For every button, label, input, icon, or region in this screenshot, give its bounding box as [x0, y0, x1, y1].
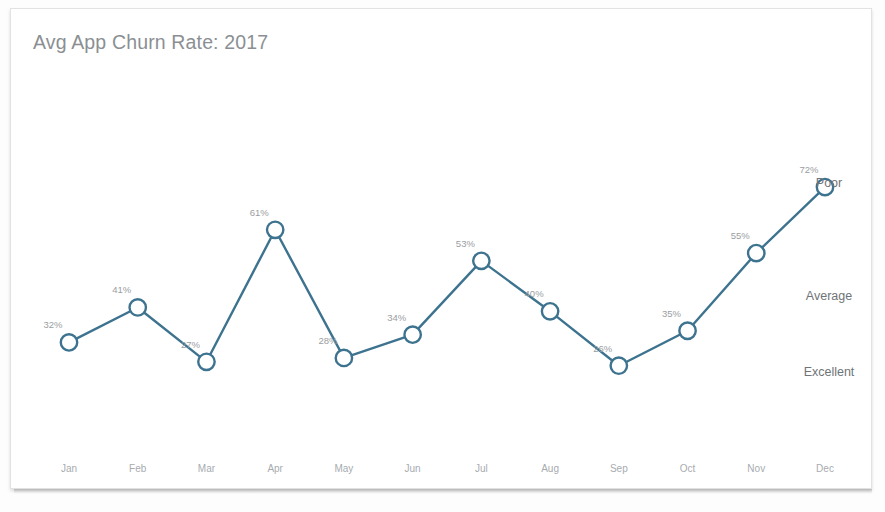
chart-zone-labels: PoorAverageExcellent	[804, 176, 855, 378]
data-point-mar[interactable]	[198, 354, 214, 370]
chart-x-axis-labels: JanFebMarAprMayJunJulAugSepOctNovDec	[61, 463, 834, 474]
value-label-mar: 27%	[181, 339, 201, 350]
value-label-aug: 40%	[525, 288, 545, 299]
x-axis-label-may: May	[334, 463, 353, 474]
x-axis-label-jul: Jul	[475, 463, 488, 474]
zone-label-average: Average	[806, 289, 852, 303]
x-axis-label-feb: Feb	[129, 463, 147, 474]
data-point-jul[interactable]	[473, 253, 489, 269]
page-root: Avg App Churn Rate: 2017 32%41%27%61%28%…	[0, 0, 885, 512]
value-label-jul: 53%	[456, 238, 476, 249]
data-point-jun[interactable]	[404, 326, 420, 342]
x-axis-label-jan: Jan	[61, 463, 77, 474]
chart-card: Avg App Churn Rate: 2017 32%41%27%61%28%…	[10, 8, 872, 489]
value-label-may: 28%	[318, 335, 338, 346]
zone-label-poor: Poor	[816, 176, 842, 190]
x-axis-label-dec: Dec	[816, 463, 834, 474]
data-point-sep[interactable]	[611, 358, 627, 374]
x-axis-label-apr: Apr	[267, 463, 283, 474]
zone-label-excellent: Excellent	[804, 365, 855, 379]
value-label-nov: 55%	[731, 230, 751, 241]
data-point-nov[interactable]	[748, 245, 764, 261]
data-point-feb[interactable]	[130, 299, 146, 315]
x-axis-label-sep: Sep	[610, 463, 628, 474]
x-axis-label-mar: Mar	[198, 463, 216, 474]
data-point-oct[interactable]	[679, 323, 695, 339]
value-label-oct: 35%	[662, 308, 682, 319]
data-point-may[interactable]	[336, 350, 352, 366]
x-axis-label-oct: Oct	[680, 463, 696, 474]
line-chart-plot: 32%41%27%61%28%34%53%40%26%35%55%72% Jan…	[11, 9, 873, 490]
data-point-apr[interactable]	[267, 222, 283, 238]
x-axis-label-aug: Aug	[541, 463, 559, 474]
x-axis-label-nov: Nov	[747, 463, 765, 474]
data-point-aug[interactable]	[542, 303, 558, 319]
value-label-apr: 61%	[250, 207, 270, 218]
value-label-jan: 32%	[43, 319, 63, 330]
value-label-jun: 34%	[387, 312, 407, 323]
chart-series-markers	[61, 179, 833, 374]
x-axis-label-jun: Jun	[405, 463, 421, 474]
value-label-dec: 72%	[799, 164, 819, 175]
value-label-sep: 26%	[593, 343, 613, 354]
value-label-feb: 41%	[112, 284, 132, 295]
data-point-jan[interactable]	[61, 334, 77, 350]
